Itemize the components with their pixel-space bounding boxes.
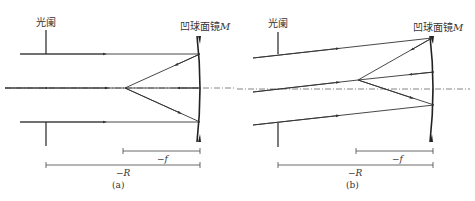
panel-b: 光阑 凹球面镜M −f −R (b): [237, 17, 470, 190]
focal-label-b: −f: [392, 154, 405, 164]
focal-label-a: −f: [157, 154, 170, 164]
caption-a: (a): [112, 180, 124, 190]
radius-label-b: −R: [348, 168, 363, 178]
mirror-label-a: 凹球面镜M: [180, 20, 231, 32]
focal-dimension-a: −f: [123, 148, 200, 164]
radius-label-a: −R: [116, 168, 131, 178]
focal-dimension-b: −f: [356, 148, 433, 164]
stop-label-b: 光阑: [268, 17, 288, 29]
concave-mirror-b: [430, 36, 433, 142]
concave-mirror-a: [197, 36, 200, 142]
radius-dimension-a: −R: [46, 162, 200, 178]
panel-a: 光阑 凹球面镜M −f −R (a): [5, 16, 235, 190]
mirror-label-b: 凹球面镜M: [413, 21, 464, 33]
radius-dimension-b: −R: [278, 162, 433, 178]
stop-label-a: 光阑: [36, 16, 56, 28]
concave-mirror-diagram: 光阑 凹球面镜M −f −R (a): [0, 0, 475, 201]
caption-b: (b): [346, 180, 359, 190]
